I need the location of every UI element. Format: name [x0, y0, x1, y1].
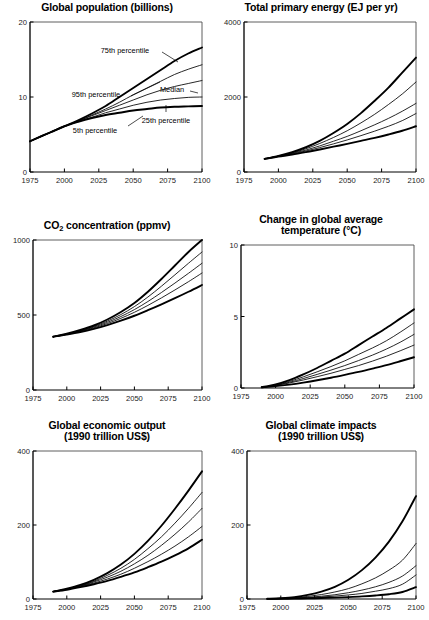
x-tick-label: 2075	[373, 176, 390, 185]
chart-svg-co2-concentration: 19752000202520502075210005001000	[0, 232, 214, 412]
annotation-label: 25th percentile	[142, 116, 190, 125]
x-tick-label: 1975	[25, 603, 42, 612]
y-tick-label: 4000	[224, 18, 241, 27]
x-tick-label: 2000	[58, 603, 75, 612]
chart-svg-temperature-change: 1975200020252050207521000510	[214, 237, 428, 410]
chart-svg-global-population: 1975200020252050207521000102075th percen…	[0, 14, 214, 194]
y-tick-label: 20	[19, 18, 27, 27]
economic-title-line-2: (1990 trillion US$)	[64, 430, 150, 442]
co2-title-prefix: CO	[44, 219, 59, 231]
x-tick-label: 2075	[371, 392, 388, 401]
annotation-label: 5th percentile	[73, 126, 117, 135]
annotation-leader-line	[128, 116, 143, 126]
y-tick-label: 200	[231, 521, 244, 530]
annotation-label: 75th percentile	[101, 46, 149, 55]
y-tick-label: 1000	[13, 236, 30, 245]
plot-area-temperature-change: 1975200020252050207521000510	[214, 237, 428, 410]
panel-title-global-population: Global population (billions)	[0, 2, 214, 14]
series-line	[53, 539, 202, 591]
annotation-leader-line	[131, 82, 160, 96]
chart-svg-global-economic-output: 1975200020252050207521000200400	[0, 443, 214, 620]
x-tick-label: 2050	[126, 603, 143, 612]
y-tick-label: 0	[234, 384, 238, 393]
x-tick-label: 2000	[270, 176, 287, 185]
series-line	[265, 57, 416, 158]
x-tick-label: 2100	[194, 603, 211, 612]
temperature-title-line-1: Change in global average	[259, 213, 383, 225]
panel-global-climate-impacts: Global climate impacts(1990 trillion US$…	[214, 408, 428, 620]
series-line	[267, 574, 416, 598]
y-tick-label: 5	[234, 312, 238, 321]
x-tick-label: 2000	[58, 394, 75, 403]
x-tick-label: 1975	[236, 176, 253, 185]
y-tick-label: 0	[237, 168, 241, 177]
series-line	[262, 322, 414, 386]
plot-frame	[244, 22, 416, 172]
annotation-leader-line	[190, 91, 198, 93]
plot-frame	[247, 451, 416, 599]
y-tick-label: 0	[240, 595, 244, 604]
y-tick-label: 500	[17, 311, 30, 320]
y-tick-label: 10	[230, 241, 238, 250]
impacts-title-line-2: (1990 trillion US$)	[278, 430, 364, 442]
impacts-title-line-1: Global climate impacts	[265, 419, 376, 431]
x-tick-label: 2025	[92, 603, 109, 612]
y-tick-label: 200	[17, 521, 30, 530]
panel-title-total-primary-energy: Total primary energy (EJ per yr)	[214, 2, 428, 14]
plot-area-global-economic-output: 1975200020252050207521000200400	[0, 443, 214, 620]
x-tick-label: 2050	[126, 394, 143, 403]
x-tick-label: 2050	[125, 176, 142, 185]
figure-six-panel-projections: Global population (billions) 19752000202…	[0, 0, 429, 620]
plot-area-global-population: 1975200020252050207521000102075th percen…	[0, 14, 214, 194]
x-tick-label: 2025	[90, 176, 107, 185]
x-tick-label: 2000	[56, 176, 73, 185]
panel-co2-concentration: CO2 concentration (ppmv) 197520002025205…	[0, 208, 214, 412]
x-tick-label: 2075	[159, 176, 176, 185]
x-tick-label: 2025	[92, 394, 109, 403]
series-line	[53, 240, 202, 337]
y-tick-label: 400	[231, 447, 244, 456]
series-line	[265, 82, 416, 159]
chart-svg-global-climate-impacts: 1975200020252050207521000200400	[214, 443, 428, 620]
x-tick-label: 2075	[374, 603, 391, 612]
annotation-leader-line	[162, 52, 178, 62]
plot-frame	[33, 451, 202, 599]
x-tick-label: 1975	[233, 392, 250, 401]
panel-total-primary-energy: Total primary energy (EJ per yr) 1975200…	[214, 2, 428, 194]
chart-svg-total-primary-energy: 197520002025205020752100020004000	[214, 14, 428, 194]
x-tick-label: 1975	[22, 176, 39, 185]
annotation-label: 95th percentile	[72, 90, 120, 99]
x-tick-label: 2000	[272, 603, 289, 612]
temperature-title-line-2: temperature (°C)	[281, 224, 361, 236]
annotation-label: Median	[160, 85, 184, 94]
series-line	[267, 543, 416, 598]
series-line	[262, 334, 414, 387]
x-tick-label: 2000	[267, 392, 284, 401]
panel-global-population: Global population (billions) 19752000202…	[0, 2, 214, 194]
x-tick-label: 2025	[302, 392, 319, 401]
series-line	[267, 496, 416, 599]
y-tick-label: 2000	[224, 93, 241, 102]
x-tick-label: 2050	[340, 603, 357, 612]
series-line	[53, 263, 202, 337]
y-tick-label: 0	[26, 386, 30, 395]
plot-frame	[241, 245, 414, 388]
x-tick-label: 2025	[304, 176, 321, 185]
x-tick-label: 2100	[194, 394, 211, 403]
series-line	[265, 103, 416, 159]
series-line	[53, 508, 202, 591]
x-tick-label: 2100	[406, 392, 423, 401]
co2-title-suffix: concentration (ppmv)	[63, 219, 170, 231]
panel-title-co2-concentration: CO2 concentration (ppmv)	[0, 208, 214, 232]
panel-title-global-economic-output: Global economic output(1990 trillion US$…	[0, 408, 214, 443]
y-tick-label: 0	[23, 168, 27, 177]
panel-title-global-climate-impacts: Global climate impacts(1990 trillion US$…	[214, 408, 428, 443]
x-tick-label: 2050	[336, 392, 353, 401]
x-tick-label: 2050	[339, 176, 356, 185]
x-tick-label: 2025	[306, 603, 323, 612]
economic-title-line-1: Global economic output	[49, 419, 166, 431]
x-tick-label: 2100	[408, 603, 425, 612]
series-line	[53, 492, 202, 591]
y-tick-label: 10	[19, 93, 27, 102]
x-tick-label: 2075	[160, 394, 177, 403]
